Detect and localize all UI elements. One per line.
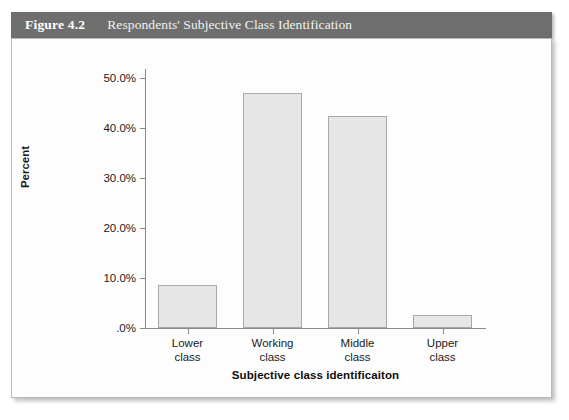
- bar-lower-class[interactable]: [158, 285, 217, 329]
- x-axis-label-line: class: [225, 351, 321, 365]
- y-axis-tick-label: 10.0%: [62, 272, 136, 284]
- y-axis-tick-label: 50.0%: [62, 72, 136, 84]
- x-axis-label-line: Upper: [395, 337, 491, 351]
- figure-container: Figure 4.2 Respondents' Subjective Class…: [0, 0, 569, 420]
- x-axis-tick: [273, 329, 274, 334]
- figure-header: Figure 4.2 Respondents' Subjective Class…: [11, 12, 552, 38]
- x-axis-category-label: Middleclass: [310, 337, 406, 364]
- x-axis-label-line: Working: [225, 337, 321, 351]
- y-axis-title: Percent: [19, 146, 31, 188]
- chart-panel: Percent .0%10.0%20.0%30.0%40.0%50.0% Low…: [11, 38, 552, 398]
- x-axis-tick: [443, 329, 444, 334]
- x-axis-tick: [358, 329, 359, 334]
- figure-caption: Respondents' Subjective Class Identifica…: [107, 17, 352, 33]
- x-axis-title: Subjective class identificaiton: [145, 369, 486, 381]
- bar-middle-class[interactable]: [328, 116, 387, 329]
- x-axis-label-line: class: [310, 351, 406, 365]
- x-axis-label-line: class: [395, 351, 491, 365]
- y-axis-tick-label: 30.0%: [62, 172, 136, 184]
- x-axis-category-label: Upperclass: [395, 337, 491, 364]
- x-axis-label-line: Middle: [310, 337, 406, 351]
- x-axis-category-label: Lowerclass: [140, 337, 236, 364]
- bar-working-class[interactable]: [243, 93, 302, 328]
- x-axis-category-label: Workingclass: [225, 337, 321, 364]
- y-axis-tick-label: 20.0%: [62, 222, 136, 234]
- bar-upper-class[interactable]: [413, 315, 472, 329]
- x-axis-label-line: class: [140, 351, 236, 365]
- figure-number: Figure 4.2: [25, 17, 85, 33]
- x-axis-label-line: Lower: [140, 337, 236, 351]
- y-axis-tick-label: 40.0%: [62, 122, 136, 134]
- x-axis-tick: [188, 329, 189, 334]
- x-axis-line: [145, 328, 486, 329]
- y-axis-tick-label: .0%: [62, 322, 136, 334]
- plot-area: [145, 69, 485, 328]
